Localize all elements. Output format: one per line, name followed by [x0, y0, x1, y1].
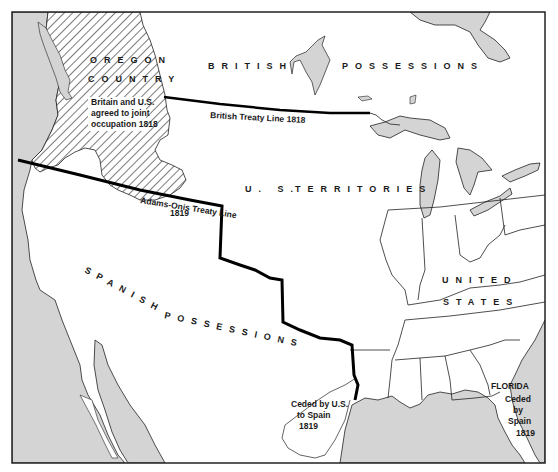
ceded-us-line1: Ceded by U.S.	[291, 399, 348, 409]
label-country: COUNTRY	[88, 74, 181, 84]
territorial-map: OREGON COUNTRY Britain and U.S. agreed t…	[0, 0, 558, 472]
label-florida: FLORIDA	[491, 381, 529, 391]
label-us: U. S.	[245, 184, 300, 194]
ceded-us-line3: 1819	[299, 421, 318, 431]
label-oregon: OREGON	[90, 55, 172, 65]
ceded-spain-line3: Spain	[508, 416, 531, 426]
oregon-note-line2: agreed to joint	[91, 108, 150, 118]
label-united: UNITED	[442, 275, 518, 285]
ceded-spain-line1: Ceded	[505, 394, 531, 404]
adams-onis-label-line2: 1819	[170, 208, 189, 218]
ceded-us-line2: to Spain	[297, 410, 331, 420]
label-states: STATES	[443, 297, 519, 307]
label-territories: TERRITORIES	[295, 184, 432, 194]
label-possessions-british: POSSESSIONS	[342, 61, 484, 71]
oregon-note-line1: Britain and U.S.	[91, 97, 154, 107]
label-british: BRITISH	[208, 61, 293, 71]
oregon-note-line3: occupation 1818	[91, 119, 158, 129]
ceded-spain-line4: 1819	[516, 428, 535, 438]
ceded-spain-line2: by	[513, 405, 523, 415]
